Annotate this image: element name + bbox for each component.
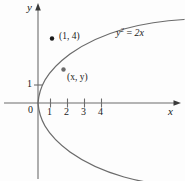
x-tick-label-1: 1 bbox=[47, 107, 52, 117]
curve-equation-operator: = bbox=[124, 27, 135, 38]
y-axis-arrowhead bbox=[35, 3, 41, 11]
point-marker-1-4 bbox=[50, 36, 54, 40]
x-tick-label-4: 4 bbox=[98, 107, 103, 117]
x-tick-label-3: 3 bbox=[81, 107, 86, 117]
parabola-lower-branch bbox=[38, 103, 184, 181]
x-axis-label: x bbox=[168, 106, 173, 117]
point-label-1-4: (1, 4) bbox=[59, 32, 80, 42]
x-tick-label-2: 2 bbox=[64, 107, 69, 117]
parabola-figure: y x 0 1 1 2 3 4 (1, 4) (x, y) y2 = 2x bbox=[0, 0, 185, 181]
y-axis-label: y bbox=[27, 2, 32, 13]
y-tick-label-1: 1 bbox=[27, 79, 32, 89]
x-axis-arrowhead bbox=[174, 100, 182, 106]
curve-equation-rhs: 2x bbox=[135, 27, 144, 38]
point-label-xy: (x, y) bbox=[67, 73, 88, 83]
point-marker-xy bbox=[61, 67, 65, 71]
curve-equation-label: y2 = 2x bbox=[116, 27, 144, 38]
plot-canvas bbox=[0, 0, 185, 181]
origin-label: 0 bbox=[28, 105, 33, 115]
